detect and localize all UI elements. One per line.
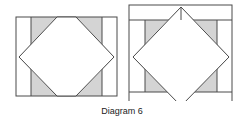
- diagram-caption: Diagram 6: [0, 106, 244, 116]
- right-block: [129, 5, 232, 115]
- left-block: [16, 17, 117, 96]
